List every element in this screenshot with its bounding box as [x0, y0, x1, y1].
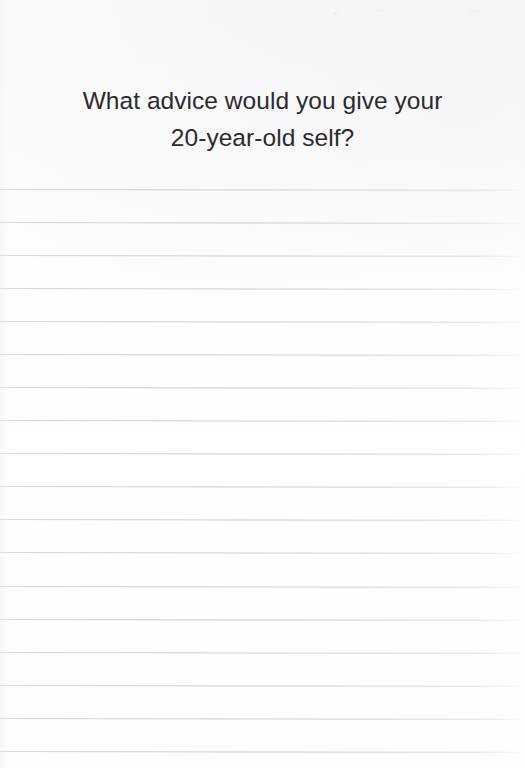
rule-line — [0, 288, 519, 290]
rule-line — [0, 751, 519, 753]
rule-line — [0, 420, 519, 422]
rule-line — [0, 619, 519, 621]
rule-line — [0, 552, 519, 554]
rule-line — [0, 321, 519, 323]
rule-line — [0, 685, 519, 687]
rule-line — [0, 189, 519, 191]
rule-line — [0, 255, 519, 257]
rule-line — [0, 586, 519, 588]
rule-line — [0, 718, 519, 720]
rule-line — [0, 222, 519, 224]
rule-line — [0, 453, 519, 455]
rule-line — [0, 387, 519, 389]
rule-line — [0, 519, 519, 521]
journal-page: What advice would you give your 20-year-… — [0, 0, 525, 768]
rule-line — [0, 486, 519, 488]
ruled-writing-area[interactable] — [0, 0, 525, 768]
rule-line — [0, 652, 519, 654]
rule-line — [0, 354, 519, 356]
